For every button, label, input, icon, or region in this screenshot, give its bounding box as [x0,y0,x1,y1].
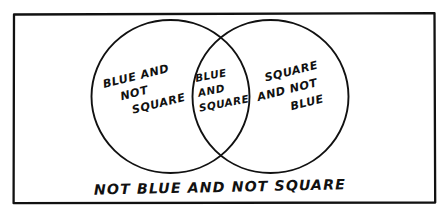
venn-diagram-figure: BLUE AND NOT SQUARE BLUE AND SQUARE SQUA… [0,0,447,217]
venn-diagram-canvas: BLUE AND NOT SQUARE BLUE AND SQUARE SQUA… [0,0,447,217]
